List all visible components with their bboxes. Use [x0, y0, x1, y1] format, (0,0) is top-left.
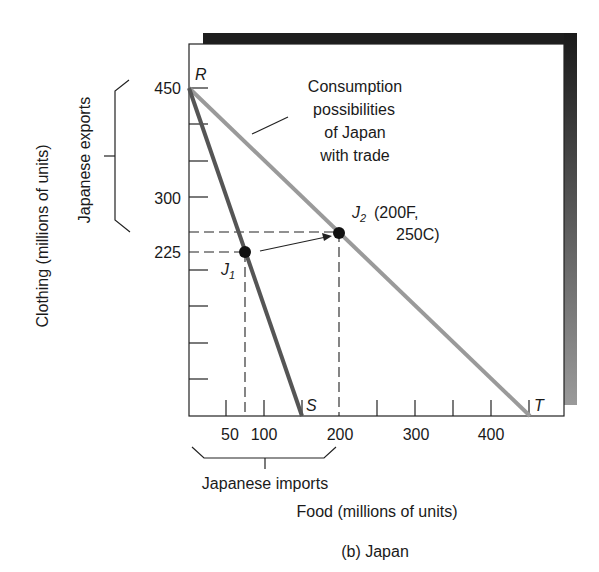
- svg-text:300: 300: [154, 190, 181, 207]
- svg-text:possibilities: possibilities: [313, 101, 395, 118]
- frame-shadow-right: [564, 33, 577, 405]
- exports-bracket: [104, 80, 130, 232]
- label-s: S: [306, 397, 317, 414]
- y-tick-labels: 450 300 225: [154, 80, 181, 261]
- svg-text:of Japan: of Japan: [324, 124, 385, 141]
- x-tick-labels: 50 100 200 300 400: [221, 426, 504, 443]
- chart: R S T J1 J2 (200F, 250C) Consumption pos…: [0, 0, 599, 572]
- svg-text:300: 300: [403, 426, 430, 443]
- svg-text:400: 400: [478, 426, 505, 443]
- svg-text:Consumption: Consumption: [308, 78, 402, 95]
- imports-label: Japanese imports: [202, 475, 328, 492]
- svg-text:200: 200: [327, 426, 354, 443]
- y-axis-title: Clothing (millions of units): [34, 144, 51, 327]
- svg-text:50: 50: [221, 426, 239, 443]
- label-r: R: [195, 66, 207, 83]
- imports-bracket: [192, 447, 336, 469]
- label-t: T: [534, 397, 545, 414]
- label-j2-coords-2: 250C): [396, 226, 440, 243]
- svg-text:with trade: with trade: [319, 147, 389, 164]
- exports-label: Japanese exports: [76, 97, 93, 223]
- svg-text:100: 100: [251, 426, 278, 443]
- x-axis-title: Food (millions of units): [297, 503, 458, 520]
- svg-text:225: 225: [154, 244, 181, 261]
- chart-title: (b) Japan: [341, 543, 409, 560]
- point-j1: [239, 246, 251, 258]
- label-j2-coords-1: (200F,: [374, 204, 418, 221]
- point-j2: [333, 227, 345, 239]
- svg-text:450: 450: [154, 80, 181, 97]
